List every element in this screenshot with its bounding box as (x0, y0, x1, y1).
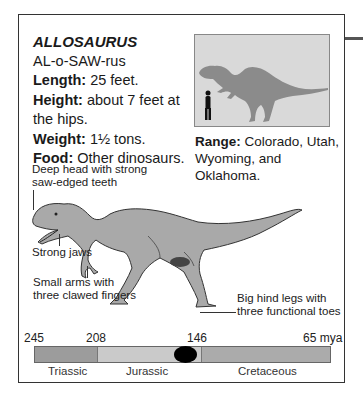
time-period-marker-icon (174, 346, 197, 363)
pronunciation: AL-o-SAW-rus (33, 52, 193, 72)
size-comparison-silhouette-icon (195, 35, 329, 126)
era-label-cretaceous: Cretaceous (238, 365, 297, 377)
timeline-tick-65: 65 mya (303, 331, 342, 345)
timeline-tick-208: 208 (86, 331, 106, 345)
callout-head-leader (33, 190, 34, 210)
callout-legs: Big hind legs with three functional toes (237, 292, 347, 318)
range-text: Range: Colorado, Utah, Wyoming, and Okla… (195, 133, 345, 184)
callout-legs-leader (200, 312, 236, 313)
callout-jaws-leader (59, 234, 60, 246)
card-tab-marker (345, 37, 363, 40)
callout-jaws: Strong jaws (32, 246, 92, 259)
fact-length: Length: 25 feet. (33, 71, 193, 91)
size-comparison-box (194, 34, 330, 127)
fact-weight: Weight: 1½ tons. (33, 130, 193, 150)
era-label-triassic: Triassic (48, 365, 87, 377)
callout-arms-leader (87, 266, 88, 278)
callout-arms: Small arms with three clawed fingers (33, 276, 143, 302)
era-label-jurassic: Jurassic (126, 365, 168, 377)
fact-list: ALLOSAURUS AL-o-SAW-rus Length: 25 feet.… (33, 32, 193, 169)
era-triassic-segment (35, 347, 98, 362)
dinosaur-name: ALLOSAURUS (33, 32, 193, 52)
timeline-tick-245: 245 (24, 331, 44, 345)
timeline-tick-146: 146 (187, 331, 207, 345)
fact-height: Height: about 7 feet at the hips. (33, 91, 193, 130)
era-cretaceous-segment (202, 347, 330, 362)
callout-head: Deep head with strong saw-edged teeth (32, 163, 162, 189)
